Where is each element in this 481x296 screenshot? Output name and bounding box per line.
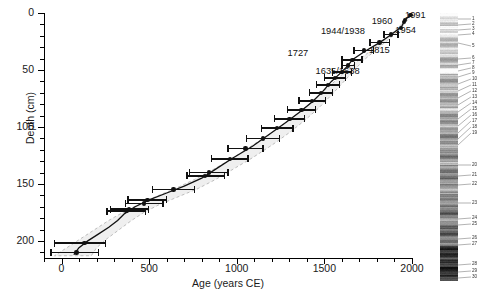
core-layer-number: 5	[472, 44, 475, 49]
core-leader-line	[458, 224, 471, 225]
x-tick-minor	[97, 258, 98, 262]
core-leader-line	[458, 91, 471, 98]
core-layer-number: 20	[472, 163, 477, 168]
x-tick-minor	[307, 258, 308, 262]
core-leader-line	[458, 34, 471, 35]
x-tick-minor	[184, 258, 185, 262]
core-layer-number: 24	[472, 216, 477, 221]
core-layer-number: 19	[472, 131, 477, 136]
x-tick-minor	[132, 258, 133, 262]
x-tick-label: 1500	[294, 262, 354, 274]
core-layer-number: 13	[472, 95, 477, 100]
core-leader-line	[458, 238, 471, 239]
core-layer-number: 21	[472, 173, 477, 178]
x-tick-minor	[167, 258, 168, 262]
core-leader-line	[458, 115, 471, 126]
core-leader-line	[458, 24, 471, 25]
y-tick-label: 0	[0, 7, 34, 17]
y-tick-label: 50	[0, 64, 34, 74]
core-leader-line	[458, 264, 471, 265]
core-leader-line	[458, 73, 471, 77]
x-tick-minor	[342, 258, 343, 262]
core-leader-line	[458, 85, 471, 91]
core-leader-line	[458, 43, 471, 46]
x-tick-minor	[254, 258, 255, 262]
core-layer-number: 29	[472, 269, 477, 274]
core-layer-number: 28	[472, 262, 477, 267]
x-tick-minor	[79, 258, 80, 262]
x-tick-minor	[359, 258, 360, 262]
x-axis-line	[44, 258, 412, 259]
x-tick-label: 500	[119, 262, 179, 274]
core-layer-number: 14	[472, 101, 477, 106]
core-layer-number: 10	[472, 77, 477, 82]
year-annotation: 1815	[369, 46, 390, 55]
age-depth-figure: Depth (cm) Age (years CE) 05010015020005…	[0, 0, 481, 296]
core-layer-number: 30	[472, 275, 477, 280]
year-annotation: 1954	[395, 26, 416, 35]
core-leader-line	[458, 79, 471, 84]
core-leader-line	[458, 63, 471, 65]
year-annotation: 1991	[405, 11, 426, 20]
core-layer-number: 9	[472, 71, 475, 76]
core-leader-line	[458, 271, 471, 272]
core-leader-line	[458, 184, 471, 185]
plot-area: 1991196019541944/1938181517271635/1638	[44, 13, 412, 258]
core-leader-line	[458, 277, 471, 278]
x-tick-label: 1000	[207, 262, 267, 274]
x-tick-minor	[289, 258, 290, 262]
core-layer-number: 11	[472, 83, 477, 88]
y-axis-title: Depth (cm)	[24, 68, 36, 168]
x-axis-title: Age (years CE)	[148, 277, 308, 289]
core-layer-number: 18	[472, 125, 477, 130]
year-annotation: 1944/1938	[321, 27, 365, 36]
x-tick-minor	[377, 258, 378, 262]
core-leader-line	[458, 175, 471, 176]
x-tick-minor	[114, 258, 115, 262]
x-tick-label: 2000	[382, 262, 442, 274]
x-tick-minor	[219, 258, 220, 262]
year-annotation: 1635/1638	[316, 67, 360, 76]
core-layer-number: 12	[472, 89, 477, 94]
x-tick-minor	[44, 258, 45, 262]
core-leader-line	[458, 29, 471, 30]
annotation-leaders	[44, 13, 412, 258]
year-annotation: 1727	[288, 49, 309, 58]
core-layer-number: 4	[472, 32, 475, 37]
core-leader-line	[458, 133, 471, 145]
x-tick-minor	[202, 258, 203, 262]
core-layer-number: 22	[472, 182, 477, 187]
core-layer-number: 27	[472, 242, 477, 247]
core-leader-line	[458, 97, 471, 105]
x-tick-minor	[272, 258, 273, 262]
y-tick-label: 200	[0, 235, 34, 245]
core-leader-line	[458, 68, 471, 71]
core-leader-line	[458, 58, 471, 59]
core-leader-line	[458, 244, 471, 245]
year-annotation: 1960	[372, 17, 393, 26]
y-tick-label: 100	[0, 121, 34, 131]
x-tick-minor	[394, 258, 395, 262]
core-layer-number: 15	[472, 107, 477, 112]
core-leader-line	[458, 218, 471, 219]
core-leader-line	[458, 127, 471, 139]
core-layer-number: 17	[472, 119, 477, 124]
core-layer-number: 26	[472, 236, 477, 241]
y-tick-label: 150	[0, 178, 34, 188]
x-tick-label: 0	[32, 262, 92, 274]
core-layer-number: 23	[472, 201, 477, 206]
core-layer-number: 16	[472, 113, 477, 118]
core-leader-line	[458, 121, 471, 133]
core-layer-number: 25	[472, 222, 477, 227]
